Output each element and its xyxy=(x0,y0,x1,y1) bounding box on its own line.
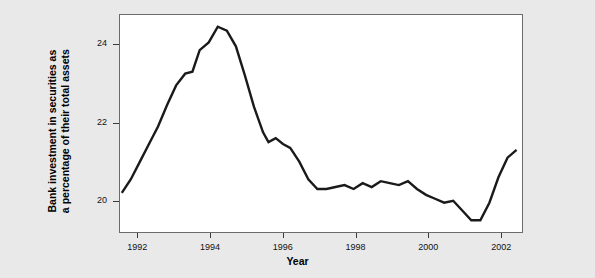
x-tick-label: 2002 xyxy=(481,243,521,252)
x-axis-title: Year xyxy=(0,255,595,267)
y-tick-mark xyxy=(113,44,119,45)
plot-area xyxy=(119,14,523,233)
x-tick-label: 1998 xyxy=(336,243,376,252)
x-tick-mark xyxy=(501,233,502,238)
x-tick-mark xyxy=(210,233,211,238)
y-tick-mark xyxy=(113,123,119,124)
x-tick-label: 1996 xyxy=(263,243,303,252)
x-tick-mark xyxy=(283,233,284,238)
x-tick-label: 2000 xyxy=(408,243,448,252)
y-axis-title: Bank investment in securities as a perce… xyxy=(46,26,72,236)
chart-figure: Bank investment in securities as a perce… xyxy=(0,0,595,278)
x-tick-label: 1992 xyxy=(117,243,157,252)
y-tick-label: 22 xyxy=(83,118,107,127)
y-tick-label: 24 xyxy=(83,39,107,48)
data-series-line xyxy=(120,15,522,232)
x-tick-mark xyxy=(137,233,138,238)
series-polyline xyxy=(122,27,517,221)
y-axis-title-line2: a percentage of their total assets xyxy=(59,26,72,236)
y-tick-mark xyxy=(113,201,119,202)
y-axis-title-line1: Bank investment in securities as xyxy=(46,26,59,236)
x-tick-mark xyxy=(428,233,429,238)
x-tick-label: 1994 xyxy=(190,243,230,252)
x-tick-mark xyxy=(356,233,357,238)
y-tick-label: 20 xyxy=(83,196,107,205)
